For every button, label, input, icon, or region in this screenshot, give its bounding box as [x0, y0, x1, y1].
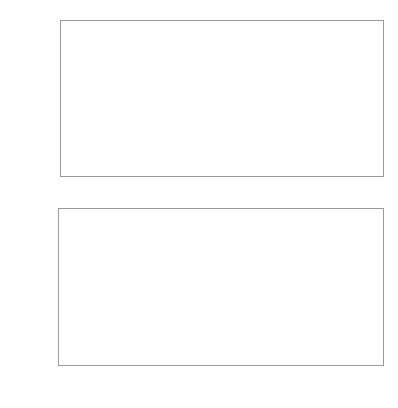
figure-root — [0, 0, 398, 408]
middle-price-panel — [59, 209, 384, 366]
bottom-plot-frame — [59, 209, 384, 366]
annualized-volatility-panel — [61, 21, 384, 177]
chart-canvas — [0, 0, 398, 408]
top-plot-frame — [61, 21, 384, 177]
